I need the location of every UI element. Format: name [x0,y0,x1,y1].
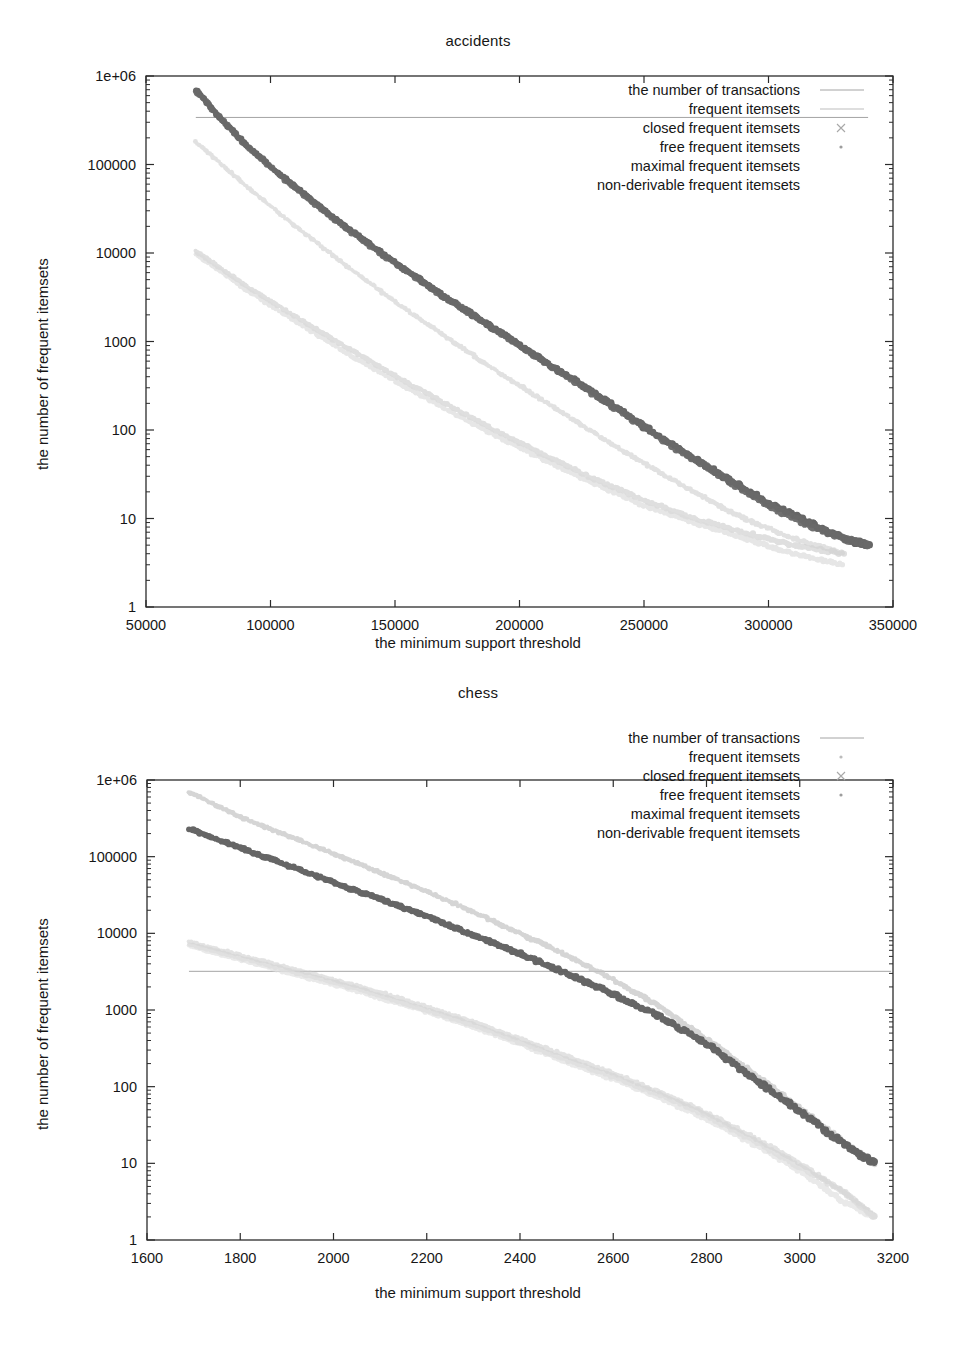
svg-text:10: 10 [120,511,136,527]
svg-text:free frequent itemsets: free frequent itemsets [660,139,800,155]
svg-text:3200: 3200 [877,1250,909,1266]
svg-text:100000: 100000 [88,157,136,173]
svg-text:1e+06: 1e+06 [96,772,137,788]
svg-text:non-derivable frequent itemset: non-derivable frequent itemsets [597,825,800,841]
svg-text:300000: 300000 [744,617,792,633]
svg-text:closed frequent itemsets: closed frequent itemsets [643,768,800,784]
svg-text:maximal frequent itemsets: maximal frequent itemsets [631,158,800,174]
svg-text:1000: 1000 [104,334,136,350]
svg-text:1: 1 [129,1232,137,1248]
figure-page: accidents the number of frequent itemset… [0,0,956,1352]
svg-text:100: 100 [112,422,136,438]
svg-text:maximal frequent itemsets: maximal frequent itemsets [631,806,800,822]
svg-text:1000: 1000 [105,1002,137,1018]
svg-text:10000: 10000 [97,925,137,941]
svg-text:10: 10 [121,1155,137,1171]
svg-text:2200: 2200 [411,1250,443,1266]
plot-area-chess: 1600180020002200240026002800300032001101… [0,660,956,1352]
svg-text:1600: 1600 [131,1250,163,1266]
svg-text:100: 100 [113,1079,137,1095]
svg-text:1800: 1800 [224,1250,256,1266]
svg-text:250000: 250000 [620,617,668,633]
svg-text:3000: 3000 [784,1250,816,1266]
svg-text:the number of transactions: the number of transactions [628,82,800,98]
svg-text:the number of transactions: the number of transactions [628,730,800,746]
svg-text:2800: 2800 [690,1250,722,1266]
svg-text:1e+06: 1e+06 [95,68,136,84]
svg-text:frequent itemsets: frequent itemsets [689,101,800,117]
svg-text:100000: 100000 [89,849,137,865]
chart-accidents: accidents the number of frequent itemset… [0,0,956,676]
svg-text:150000: 150000 [371,617,419,633]
svg-text:200000: 200000 [495,617,543,633]
chart-chess: chess the number of frequent itemsets th… [0,660,956,1352]
svg-text:50000: 50000 [126,617,166,633]
svg-text:2600: 2600 [597,1250,629,1266]
plot-area-accidents: 5000010000015000020000025000030000035000… [0,0,956,676]
svg-text:non-derivable frequent itemset: non-derivable frequent itemsets [597,177,800,193]
svg-text:10000: 10000 [96,245,136,261]
svg-text:closed frequent itemsets: closed frequent itemsets [643,120,800,136]
svg-text:1: 1 [128,599,136,615]
svg-text:350000: 350000 [869,617,917,633]
svg-text:100000: 100000 [246,617,294,633]
svg-text:2400: 2400 [504,1250,536,1266]
svg-text:2000: 2000 [317,1250,349,1266]
svg-text:frequent itemsets: frequent itemsets [689,749,800,765]
svg-text:free frequent itemsets: free frequent itemsets [660,787,800,803]
